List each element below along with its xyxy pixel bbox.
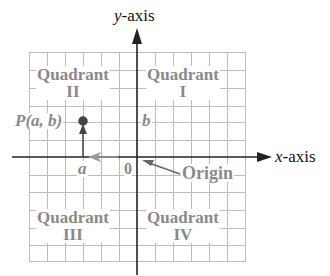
origin-label: Origin — [181, 164, 234, 182]
point-p-dot — [79, 117, 87, 125]
origin-pointer-arrow-icon — [142, 160, 154, 166]
origin-pointer-line — [149, 163, 180, 174]
x-axis-arrow-icon — [257, 152, 272, 162]
quadrant-iv-label: Quadrant IV — [146, 209, 220, 243]
x-axis-suffix: -axis — [283, 147, 316, 166]
y-axis-arrow-icon — [132, 28, 142, 44]
a-mark: a — [77, 161, 88, 177]
y-axis-var: y — [114, 6, 122, 25]
point-p-label: P(a, b) — [14, 113, 63, 129]
origin-zero-mark: 0 — [124, 161, 132, 177]
quadrant-i-label: Quadrant I — [146, 66, 220, 100]
quadrant-iii-label: Quadrant III — [36, 209, 110, 243]
x-axis-label: x-axis — [275, 147, 316, 167]
b-mark: b — [141, 113, 152, 129]
y-axis-suffix: -axis — [122, 6, 155, 25]
quadrant-ii-label: Quadrant II — [36, 66, 110, 100]
x-axis-var: x — [275, 147, 283, 166]
y-axis-label: y-axis — [114, 6, 155, 26]
